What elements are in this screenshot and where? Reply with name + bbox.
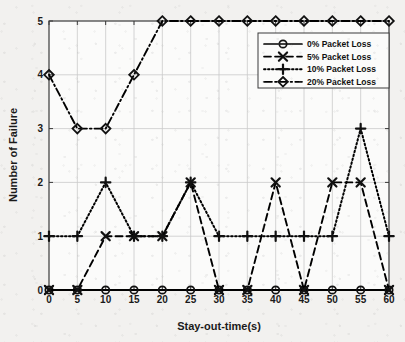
legend-item-1[interactable]: 5% Packet Loss [264, 52, 372, 62]
x-tick-35: 35 [242, 294, 254, 305]
x-tick-45: 45 [298, 294, 310, 305]
x-tick-20: 20 [157, 294, 169, 305]
legend-item-3[interactable]: 20% Packet Loss [264, 77, 376, 87]
y-tick-1: 1 [37, 231, 43, 242]
x-tick-5: 5 [75, 294, 81, 305]
chart-legend[interactable]: 0% Packet Loss5% Packet Loss10% Packet L… [258, 33, 389, 88]
legend-label-2: 10% Packet Loss [307, 64, 376, 74]
y-tick-0: 0 [37, 285, 43, 296]
x-tick-50: 50 [327, 294, 339, 305]
legend-label-0: 0% Packet Loss [307, 39, 372, 49]
failure-vs-stayouttime-line-chart: 051015202530354045505560 012345 Stay-out… [0, 0, 405, 342]
legend-label-3: 20% Packet Loss [307, 77, 376, 87]
y-tick-5: 5 [37, 16, 43, 27]
y-tick-4: 4 [37, 69, 43, 80]
x-tick-40: 40 [270, 294, 282, 305]
x-tick-15: 15 [128, 294, 140, 305]
chart-figure: 051015202530354045505560 012345 Stay-out… [0, 0, 405, 342]
y-axis-label: Number of Failure [7, 108, 19, 202]
x-tick-25: 25 [185, 294, 197, 305]
x-tick-10: 10 [100, 294, 112, 305]
x-tick-55: 55 [355, 294, 367, 305]
y-tick-3: 3 [37, 123, 43, 134]
x-tick-30: 30 [213, 294, 225, 305]
x-tick-0: 0 [46, 294, 52, 305]
x-tick-60: 60 [383, 294, 395, 305]
legend-label-1: 5% Packet Loss [307, 52, 372, 62]
y-tick-2: 2 [37, 177, 43, 188]
x-axis-label: Stay-out-time(s) [177, 320, 261, 332]
